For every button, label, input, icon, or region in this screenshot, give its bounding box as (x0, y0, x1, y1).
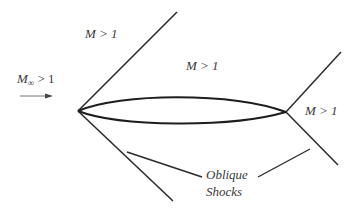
trailing-region-text: M > 1 (305, 103, 338, 118)
airfoil-lower-surface (78, 111, 286, 124)
mid-region-text: M > 1 (186, 58, 219, 73)
leading-lower-shock (78, 111, 173, 201)
shock-pointer-left (127, 152, 202, 177)
freestream-arrow-icon (20, 94, 53, 99)
caption-line-1: Oblique (206, 166, 248, 183)
trailing-region-mach-label: M > 1 (305, 104, 338, 117)
oblique-shocks-caption: Oblique Shocks (206, 166, 248, 200)
mid-region-mach-label: M > 1 (186, 59, 219, 72)
oblique-shock-diagram: M∞ > 1 M > 1 M > 1 M > 1 Oblique Shocks (0, 0, 356, 217)
mach-symbol: M (17, 71, 28, 86)
airfoil-upper-surface (78, 97, 286, 112)
upper-region-text: M > 1 (85, 26, 118, 41)
upper-region-mach-label: M > 1 (85, 27, 118, 40)
caption-line-2: Shocks (206, 183, 248, 200)
freestream-mach-label: M∞ > 1 (17, 72, 55, 88)
diagram-lines (0, 0, 356, 217)
mach-relation: > 1 (34, 71, 54, 86)
shock-pointer-right (258, 149, 310, 177)
